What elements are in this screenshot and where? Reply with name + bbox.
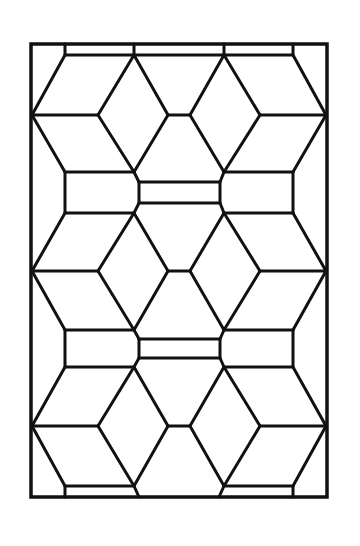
geometric-pattern-diagram [0,0,360,546]
lead-line [32,115,65,172]
lead-line [293,55,326,115]
lead-line [32,55,65,115]
lead-line [224,367,260,426]
lead-line [190,115,224,172]
lead-line [134,115,168,172]
lead-line [134,213,168,271]
lead-line [32,426,65,486]
lead-line [134,172,139,182]
lead-line [293,426,326,486]
lead-line [134,367,168,426]
lead-line [190,426,224,486]
lead-line [224,115,260,172]
lead-line [134,426,168,486]
lead-line [98,367,134,426]
lead-line [98,213,134,271]
lead-line [134,358,139,367]
lead-line [98,426,134,486]
lead-line [190,213,224,271]
lead-line [293,271,326,330]
lead-line [134,330,139,339]
lead-line [224,55,260,115]
lead-line [32,367,65,426]
lead-line [98,271,134,330]
lead-line [220,172,224,182]
lead-line [190,55,224,115]
lead-line [224,426,260,486]
lead-line [293,213,326,271]
lead-line [32,213,65,271]
lead-line [98,115,134,172]
lead-line [98,55,134,115]
lead-line [220,203,224,213]
pattern-lines [32,44,326,497]
lead-line [293,367,326,426]
lead-line [190,271,224,330]
lead-line [134,203,139,213]
lead-line [134,55,168,115]
lead-line [224,213,260,271]
lead-line [32,271,65,330]
lead-line [224,271,260,330]
lead-line [293,115,326,172]
lead-line [190,367,224,426]
lead-line [134,271,168,330]
